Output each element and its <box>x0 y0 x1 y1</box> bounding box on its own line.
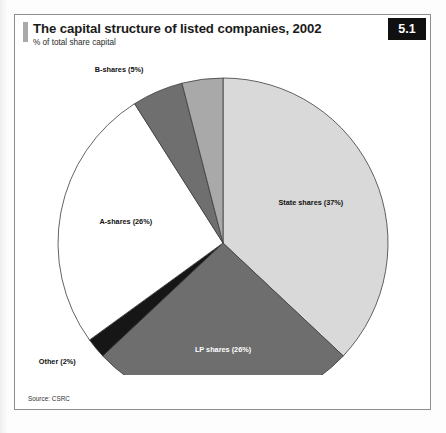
pie-slice-label-a-shares: A-shares (26%) <box>99 217 152 226</box>
pie-slice-label-lp-shares: LP shares (26%) <box>195 345 252 354</box>
page-title: The capital structure of listed companie… <box>33 21 321 36</box>
leader-line <box>83 347 97 361</box>
pie-chart-svg: State shares (37%)LP shares (26%)Other (… <box>15 55 430 375</box>
pie-slice-label-state-shares: State shares (37%) <box>278 198 343 207</box>
source-note: Source: CSRC <box>28 395 70 402</box>
pie-slice-label-b-shares: B-shares (5%) <box>95 65 144 74</box>
figure-number-badge: 5.1 <box>388 18 426 40</box>
leader-line <box>203 55 222 81</box>
scan-gutter-shadow <box>0 0 7 433</box>
figure-frame: The capital structure of listed companie… <box>14 14 431 410</box>
title-accent-rule <box>23 22 28 42</box>
leader-line <box>145 75 158 93</box>
pie-slice-label-other: Other (2%) <box>39 357 76 366</box>
pie-chart: State shares (37%)LP shares (26%)Other (… <box>15 55 430 375</box>
figure-header: The capital structure of listed companie… <box>15 15 430 59</box>
pie-slice-group <box>58 78 388 375</box>
figure-subtitle: % of total share capital <box>33 38 116 47</box>
